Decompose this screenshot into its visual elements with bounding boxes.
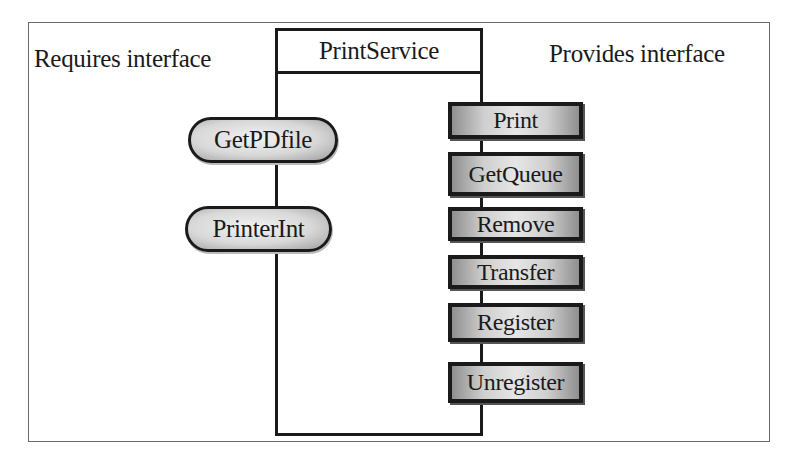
interface-label: GetPDfile — [214, 126, 312, 154]
component-name: PrintService — [278, 31, 480, 74]
interface-label: Print — [493, 107, 538, 134]
interface-label: GetQueue — [468, 161, 562, 188]
interface-label: Unregister — [467, 369, 564, 396]
provided-interface-print: Print — [448, 102, 583, 139]
interface-label: Remove — [477, 211, 555, 238]
interface-label: PrinterInt — [213, 215, 305, 243]
requires-interface-label: Requires interface — [34, 45, 211, 73]
provided-interface-remove: Remove — [448, 207, 583, 241]
provided-interface-getqueue: GetQueue — [448, 152, 583, 196]
interface-label: Register — [477, 309, 554, 336]
provided-interface-transfer: Transfer — [448, 255, 583, 289]
interface-label: Transfer — [477, 259, 554, 286]
required-interface-getpdfile: GetPDfile — [188, 117, 338, 163]
provided-interface-unregister: Unregister — [448, 362, 583, 403]
provides-interface-label: Provides interface — [549, 40, 725, 68]
provided-interface-register: Register — [448, 303, 583, 342]
required-interface-printerint: PrinterInt — [185, 206, 332, 252]
